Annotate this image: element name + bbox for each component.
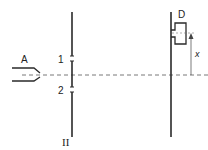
double-slit-diagram: A 1 2 II D x <box>0 0 208 150</box>
displacement-arrow <box>189 33 194 75</box>
detector <box>171 23 186 44</box>
wall-label: II <box>62 136 70 148</box>
slit-1-label: 1 <box>58 54 64 65</box>
detector-label: D <box>178 9 185 20</box>
slit-2-label: 2 <box>58 85 64 96</box>
source-gun <box>12 68 40 81</box>
source-label: A <box>21 54 28 65</box>
displacement-label: x <box>194 49 200 59</box>
slit-wall <box>70 12 74 137</box>
